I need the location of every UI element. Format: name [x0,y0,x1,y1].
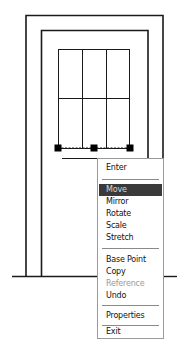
menu-item-enter[interactable]: Enter [99,162,162,174]
menu-item-move[interactable]: Move [99,184,162,196]
menu-item-copy[interactable]: Copy [99,266,162,278]
menu-item-undo[interactable]: Undo [99,290,162,302]
menu-separator [102,248,159,249]
menu-item-reference: Reference [99,278,162,290]
menu-item-stretch[interactable]: Stretch [99,232,162,244]
menu-item-mirror[interactable]: Mirror [99,196,162,208]
menu-item-rotate[interactable]: Rotate [99,208,162,220]
menu-item-scale[interactable]: Scale [99,220,162,232]
grip-right-icon[interactable] [127,145,134,152]
menu-item-base-point[interactable]: Base Point [99,254,162,266]
menu-item-exit[interactable]: Exit [99,326,162,338]
grip-context-menu: Enter Move Mirror Rotate Scale Stretch B… [97,158,164,339]
menu-separator [102,305,159,306]
grip-left-icon[interactable] [55,145,62,152]
menu-item-properties[interactable]: Properties [99,310,162,322]
grip-mid-icon[interactable] [91,145,98,152]
menu-separator [102,179,159,180]
